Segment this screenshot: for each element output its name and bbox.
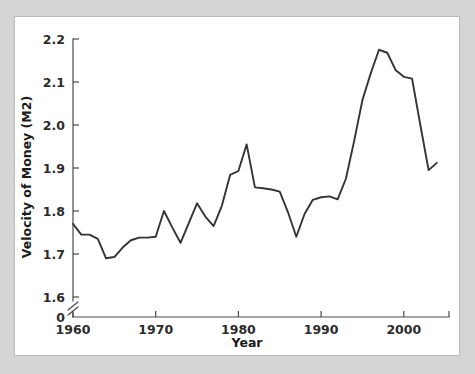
chart-panel: 2.22.12.01.91.81.71.60 19601970198019902… [14, 16, 460, 356]
y-tick-label: 1.9 [43, 161, 65, 176]
y-tick-label: 2.0 [43, 118, 65, 133]
figure-root: 2.22.12.01.91.81.71.60 19601970198019902… [0, 0, 475, 374]
y-axis-title: Velocity of Money (M2) [19, 96, 34, 258]
x-axis-title: Year [231, 335, 264, 350]
data-line-velocity-of-money [73, 50, 437, 259]
y-tick-label: 1.6 [43, 290, 65, 305]
y-tick-label: 1.8 [43, 204, 65, 219]
x-tick-label: 1960 [56, 322, 91, 337]
axis-lines [68, 39, 449, 317]
x-axis-ticks: 19601970198019902000 [56, 311, 449, 337]
x-tick-label: 2000 [386, 322, 421, 337]
y-tick-label: 2.2 [43, 32, 65, 47]
y-tick-label: 1.7 [43, 247, 65, 262]
data-series-layer [73, 50, 437, 259]
x-tick-label: 1990 [304, 322, 339, 337]
x-tick-label: 1970 [138, 322, 173, 337]
velocity-of-money-line-chart: 2.22.12.01.91.81.71.60 19601970198019902… [15, 17, 459, 355]
y-tick-label: 2.1 [43, 75, 65, 90]
